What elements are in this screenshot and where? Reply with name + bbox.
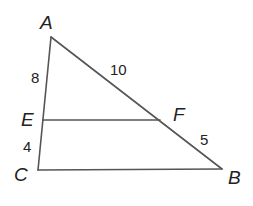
vertex-label-e: E bbox=[21, 109, 34, 130]
vertex-label-c: C bbox=[14, 164, 28, 185]
vertex-label-a: A bbox=[39, 12, 53, 33]
length-label-ae: 8 bbox=[31, 69, 39, 86]
vertex-label-b: B bbox=[228, 167, 241, 188]
segment-ac bbox=[38, 37, 51, 170]
length-label-ec: 4 bbox=[23, 138, 31, 155]
length-label-fb: 5 bbox=[200, 131, 208, 148]
length-label-af: 10 bbox=[110, 61, 127, 78]
geometry-diagram: A E C F B 8 4 10 5 bbox=[0, 0, 253, 206]
segment-ab bbox=[51, 37, 222, 169]
vertex-label-f: F bbox=[173, 104, 186, 125]
segment-cb bbox=[38, 169, 222, 170]
